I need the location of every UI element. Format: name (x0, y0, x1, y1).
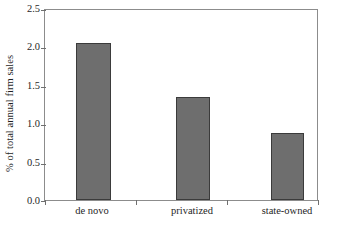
x-tick-mark (227, 200, 228, 205)
y-tick-label: 0.0 (16, 196, 40, 207)
x-tick-label-privatized: privatized (171, 206, 213, 217)
plot-area (44, 9, 318, 201)
y-tick-mark (41, 48, 46, 49)
bar-chart: % of total annual firm sales 2.5 2.0 1.5… (0, 0, 338, 227)
x-tick-mark (45, 200, 46, 205)
x-tick-mark (318, 200, 319, 205)
bar-state-owned[interactable] (271, 133, 304, 200)
y-tick-mark (41, 125, 46, 126)
y-tick-label: 1.5 (16, 81, 40, 92)
x-tick-label-de-novo: de novo (75, 206, 109, 217)
y-tick-mark (41, 10, 46, 11)
x-tick-label-state-owned: state-owned (262, 206, 313, 217)
y-tick-mark (41, 87, 46, 88)
y-tick-label: 2.0 (16, 42, 40, 53)
x-tick-mark (136, 200, 137, 205)
bar-de-novo[interactable] (76, 43, 111, 200)
y-tick-label: 2.5 (16, 4, 40, 15)
y-tick-label: 0.5 (16, 157, 40, 168)
y-tick-label: 1.0 (16, 119, 40, 130)
y-axis-tick-labels: 2.5 2.0 1.5 1.0 0.5 0.0 (14, 0, 40, 227)
bar-privatized[interactable] (176, 97, 210, 200)
y-tick-mark (41, 164, 46, 165)
